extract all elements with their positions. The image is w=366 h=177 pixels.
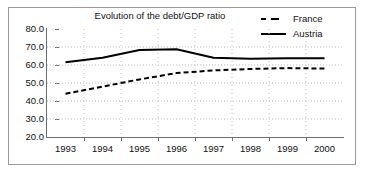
y-axis-tick-label: 40.0 — [12, 96, 44, 106]
plot-svg — [47, 29, 343, 137]
x-axis-tick — [195, 137, 196, 141]
x-axis-tick — [232, 137, 233, 141]
chart-container: Evolution of the debt/GDP ratio France A… — [0, 0, 366, 177]
y-axis-tick-label: 70.0 — [12, 42, 44, 52]
y-axis-tick-label: 80.0 — [12, 24, 44, 34]
series-lines — [66, 49, 325, 93]
x-axis-tick — [158, 137, 159, 141]
x-axis-tick — [269, 137, 270, 141]
x-axis-tick — [84, 137, 85, 141]
x-axis-tick-label: 1993 — [46, 143, 86, 154]
series-line-austria — [66, 49, 325, 62]
y-axis-tick-label: 60.0 — [12, 60, 44, 70]
x-axis-tick-label: 1995 — [120, 143, 160, 154]
chart-title: Evolution of the debt/GDP ratio — [60, 10, 260, 21]
x-axis-tick — [121, 137, 122, 141]
legend-label-france: France — [293, 13, 323, 24]
x-axis-tick-label: 1994 — [83, 143, 123, 154]
x-axis-tick-label: 1999 — [268, 143, 308, 154]
x-axis-tick-label: 1997 — [194, 143, 234, 154]
x-axis-tick-label: 1998 — [231, 143, 271, 154]
x-axis-tick-label: 1996 — [157, 143, 197, 154]
legend-item-france: France — [260, 11, 352, 26]
x-axis-labels: 19931994199519961997199819992000 — [47, 143, 343, 157]
y-axis-tick-label: 20.0 — [12, 132, 44, 142]
y-axis-tick-label: 30.0 — [12, 114, 44, 124]
legend-swatch-dashed-icon — [260, 14, 287, 24]
gridlines — [47, 29, 343, 137]
plot-area — [47, 29, 343, 137]
x-axis-tick-label: 2000 — [305, 143, 345, 154]
y-axis-tick-label: 50.0 — [12, 78, 44, 88]
x-axis-tick — [306, 137, 307, 141]
